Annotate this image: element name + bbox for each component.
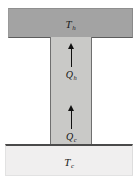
cold-heat-flow: Qc xyxy=(51,105,91,142)
heat-conduction-diagram: Th Qh Qc Tc xyxy=(0,0,140,183)
hot-reservoir-block: Th xyxy=(8,8,133,38)
cold-heat-flow-label: Qc xyxy=(51,132,91,142)
up-arrow-icon xyxy=(66,43,76,67)
cold-heat-symbol: Q xyxy=(66,131,73,142)
hot-heat-flow-label: Qh xyxy=(51,70,91,80)
hot-reservoir-label: Th xyxy=(9,19,132,30)
conducting-column: Qh Qc xyxy=(50,37,92,145)
hot-heat-symbol: Q xyxy=(66,69,73,80)
cold-temperature-symbol: T xyxy=(64,156,70,168)
cold-temperature-subscript: c xyxy=(71,162,74,170)
hot-heat-subscript: h xyxy=(73,74,76,81)
cold-heat-subscript: c xyxy=(74,136,77,143)
up-arrow-icon xyxy=(66,105,76,129)
hot-temperature-symbol: T xyxy=(65,18,71,30)
cold-reservoir-block: Tc xyxy=(5,144,133,176)
hot-heat-flow: Qh xyxy=(51,43,91,80)
cold-reservoir-label: Tc xyxy=(6,157,132,168)
hot-temperature-subscript: h xyxy=(72,24,76,32)
